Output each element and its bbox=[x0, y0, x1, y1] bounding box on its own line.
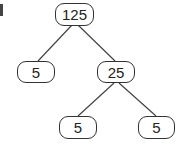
node-right: 25 bbox=[97, 61, 135, 83]
node-root: 125 bbox=[55, 3, 94, 26]
node-right-right: 5 bbox=[138, 116, 175, 139]
node-left: 5 bbox=[17, 61, 55, 83]
node-right-left: 5 bbox=[59, 116, 97, 139]
